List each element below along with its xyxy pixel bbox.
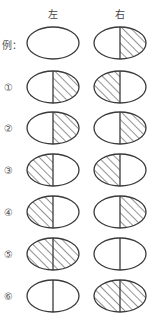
hatched-region (120, 27, 146, 59)
ellipse-grid (0, 0, 153, 322)
example-right-ellipse (94, 27, 146, 59)
row-1-left-ellipse (27, 71, 79, 103)
row-1-right-ellipse (94, 71, 146, 103)
row-4-left-ellipse (27, 196, 79, 228)
row-6-left-ellipse (27, 280, 79, 312)
row-2-right-ellipse (94, 112, 146, 144)
hatched-region (94, 154, 120, 186)
hatched-region (53, 112, 79, 144)
row-6-right-ellipse (94, 280, 146, 312)
row-3-left-ellipse (27, 154, 79, 186)
row-3-right-ellipse (94, 154, 146, 186)
hatched-region (120, 112, 146, 144)
hatched-region (120, 196, 146, 228)
hatched-region (27, 154, 53, 186)
row-2-left-ellipse (27, 112, 79, 144)
row-4-right-ellipse (94, 196, 146, 228)
hatched-region (94, 71, 120, 103)
hatched-region (27, 196, 53, 228)
row-5-right-ellipse (94, 238, 146, 270)
row-5-left-ellipse (27, 238, 79, 270)
example-left-ellipse (27, 27, 79, 59)
hatched-region (53, 71, 79, 103)
